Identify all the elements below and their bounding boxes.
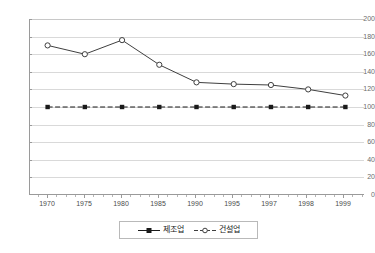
legend-label-manufacturing: 제조업 [163, 225, 184, 235]
legend-marker-open-circle-icon [194, 226, 216, 235]
data-point [232, 105, 236, 109]
legend-item-manufacturing: 제조업 [138, 225, 184, 235]
line-chart: 200 180 160 140 120 100 80 60 40 20 0 [0, 0, 375, 253]
data-point [306, 105, 310, 109]
data-point [268, 82, 273, 87]
data-point [157, 62, 162, 67]
data-point [343, 93, 348, 98]
series-construction [45, 38, 348, 99]
data-point [83, 105, 87, 109]
data-point [194, 80, 199, 85]
series-line [48, 40, 346, 95]
legend-marker-filled-square-icon [138, 226, 160, 235]
legend-label-construction: 건설업 [219, 225, 240, 235]
data-point [343, 105, 347, 109]
data-point [194, 105, 198, 109]
series-layer [0, 0, 375, 253]
data-point [157, 105, 161, 109]
data-point [120, 105, 124, 109]
data-point [231, 82, 236, 87]
series-manufacturing [45, 105, 347, 109]
data-point [45, 43, 50, 48]
data-point [82, 52, 87, 57]
data-point [306, 87, 311, 92]
data-point [119, 38, 124, 43]
data-point [45, 105, 49, 109]
chart-legend: 제조업 건설업 [119, 221, 258, 239]
data-point [269, 105, 273, 109]
legend-item-construction: 건설업 [194, 225, 240, 235]
